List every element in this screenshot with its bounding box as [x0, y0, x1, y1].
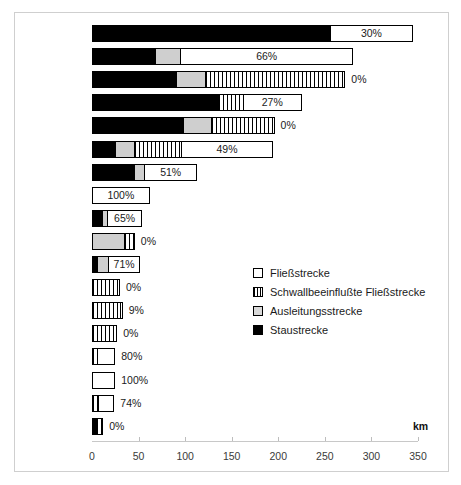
bar-percent-label: 66%	[180, 48, 352, 65]
bar-percent-label: 0%	[109, 418, 124, 435]
legend-label: Staustrecke	[270, 322, 328, 339]
bar-segment-stau	[92, 117, 183, 134]
bar-row[interactable]: 0%	[0, 325, 461, 342]
legend-label: Fließstrecke	[270, 265, 330, 282]
legend-label: Ausleitungsstrecke	[270, 303, 362, 320]
bar-percent-label: 100%	[121, 372, 148, 389]
x-axis-tickmark	[371, 437, 372, 441]
bar-segment-stau	[92, 210, 102, 227]
x-axis-tick-label: 300	[351, 450, 391, 462]
bar-row[interactable]: 71%	[0, 256, 461, 273]
bar-percent-label: 30%	[330, 25, 414, 42]
bar-row[interactable]: 65%	[0, 210, 461, 227]
bar-row[interactable]: 0%	[0, 233, 461, 250]
x-axis-tickmark	[278, 437, 279, 441]
bar-segment-stau	[92, 94, 218, 111]
bar-segment-schwall	[124, 233, 135, 250]
bar-segment-schwall	[218, 94, 243, 111]
bar-row[interactable]: 51%	[0, 164, 461, 181]
x-axis-tick-label: 150	[212, 450, 252, 462]
bar-row[interactable]: 30%	[0, 25, 461, 42]
bar-segment-fliess	[92, 372, 115, 389]
x-axis-tickmark	[185, 437, 186, 441]
bar-segment-ausl	[183, 117, 211, 134]
x-axis-tickmark	[139, 437, 140, 441]
x-axis-tick-label: 350	[398, 450, 438, 462]
bar-segment-ausl	[134, 164, 144, 181]
bar-segment-schwall	[92, 279, 120, 296]
bar-row[interactable]: 66%	[0, 48, 461, 65]
bar-percent-label: 0%	[123, 325, 138, 342]
bar-row[interactable]: 0%	[0, 418, 461, 435]
bar-percent-label: 49%	[181, 141, 272, 158]
bar-segment-stau	[92, 25, 330, 42]
x-axis-tickmark	[418, 437, 419, 441]
bar-row[interactable]: 100%	[0, 372, 461, 389]
bar-row[interactable]: 27%	[0, 94, 461, 111]
x-axis-tick-label: 0	[72, 450, 112, 462]
bar-percent-label: 9%	[129, 302, 144, 319]
legend-swatch-schwall-icon	[253, 287, 263, 297]
bar-percent-label: 100%	[92, 187, 150, 204]
x-axis-tickmark	[325, 437, 326, 441]
bar-row[interactable]: 9%	[0, 302, 461, 319]
bar-percent-label: 71%	[108, 256, 141, 273]
x-axis-tick-label: 250	[305, 450, 345, 462]
bar-segment-schwall	[92, 325, 117, 342]
bar-segment-ausl	[97, 256, 108, 273]
bar-segment-stau	[92, 164, 134, 181]
bar-row[interactable]: 80%	[0, 348, 461, 365]
bar-row[interactable]: 0%	[0, 71, 461, 88]
bar-row[interactable]: 0%	[0, 117, 461, 134]
chart-root: DonauMurInnDrauEnnsSalzachTraunMarchStey…	[0, 0, 461, 485]
bar-row[interactable]: 100%	[0, 187, 461, 204]
bar-percent-label: 27%	[243, 94, 302, 111]
bar-segment-schwall	[134, 141, 182, 158]
bar-percent-label: 65%	[107, 210, 142, 227]
chart-plot-area: DonauMurInnDrauEnnsSalzachTraunMarchStey…	[0, 0, 461, 485]
bar-row[interactable]: 49%	[0, 141, 461, 158]
bar-segment-schwall	[92, 302, 120, 319]
bar-percent-label: 74%	[120, 395, 141, 412]
legend-swatch-ausl-icon	[253, 306, 263, 316]
x-axis-tick-label: 50	[119, 450, 159, 462]
bar-segment-ausl	[176, 71, 205, 88]
bar-percent-label: 0%	[141, 233, 156, 250]
bar-segment-fliess	[98, 395, 115, 412]
bar-segment-ausl	[155, 48, 180, 65]
bar-segment-schwall	[96, 418, 103, 435]
bar-percent-label: 51%	[144, 164, 197, 181]
bar-percent-label: 80%	[121, 348, 142, 365]
x-axis-tickmark	[232, 437, 233, 441]
x-axis-line	[92, 441, 418, 442]
bar-segment-ausl	[115, 141, 134, 158]
bar-segment-stau	[92, 141, 115, 158]
bar-segment-schwall	[211, 117, 274, 134]
legend-swatch-fliess-icon	[253, 268, 263, 278]
x-axis-tick-label: 100	[165, 450, 205, 462]
legend-swatch-stau-icon	[253, 325, 263, 335]
bar-segment-fliess	[97, 348, 116, 365]
x-axis-tick-label: 200	[258, 450, 298, 462]
bar-row[interactable]: 74%	[0, 395, 461, 412]
bar-percent-label: 0%	[351, 71, 366, 88]
legend-label: Schwallbeeinflußte Fließstrecke	[270, 284, 425, 301]
bar-percent-label: 0%	[281, 117, 296, 134]
bar-segment-stau	[92, 48, 155, 65]
x-axis-unit-label: km	[413, 420, 428, 432]
bar-segment-ausl	[92, 233, 124, 250]
bar-segment-stau	[92, 71, 176, 88]
bar-percent-label: 0%	[126, 279, 141, 296]
bar-segment-fliess	[120, 302, 123, 319]
bar-segment-schwall	[205, 71, 346, 88]
